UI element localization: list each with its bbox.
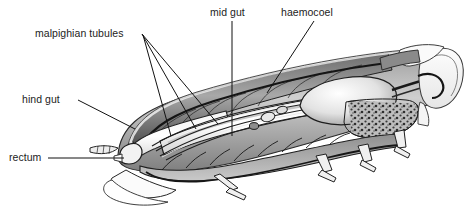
label-mid-gut: mid gut xyxy=(210,6,245,18)
leg-hind-foot xyxy=(226,188,246,200)
insect-body-artwork xyxy=(90,45,463,206)
label-haemocoel: haemocoel xyxy=(281,6,333,18)
insect-anatomy-diagram: malpighian tubules mid gut haemocoel hin… xyxy=(0,0,467,215)
label-hind-gut: hind gut xyxy=(22,93,60,105)
leg-fore-foot xyxy=(360,160,376,172)
label-malpighian-tubules: malpighian tubules xyxy=(35,27,123,39)
label-rectum: rectum xyxy=(9,151,41,163)
leg-mid-foot xyxy=(318,170,336,182)
fat-body-tissue xyxy=(344,99,419,138)
leader-hind-gut xyxy=(78,100,135,129)
